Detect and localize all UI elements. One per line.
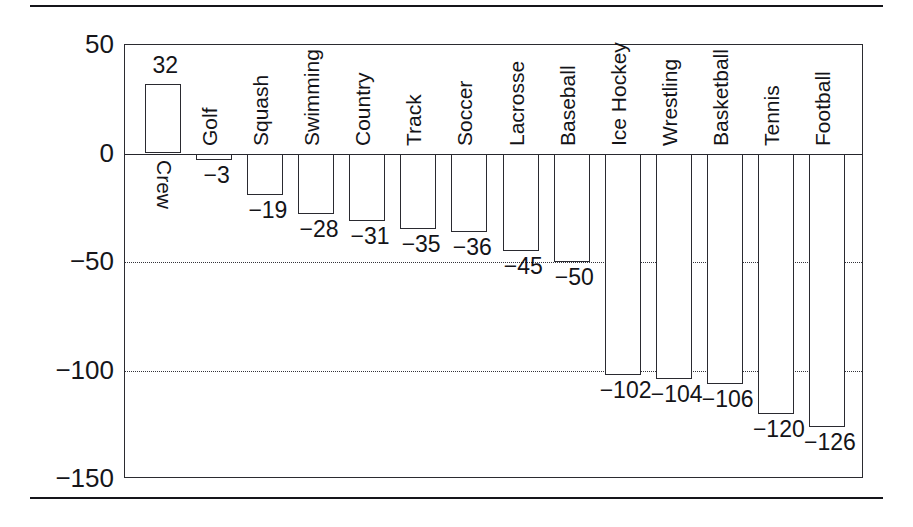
bar-value-label: −102 <box>600 379 652 402</box>
bar-value-label: −31 <box>351 225 390 248</box>
category-label: Wrestling <box>659 58 680 145</box>
category-label: Golf <box>199 107 220 146</box>
category-label: Track <box>403 94 424 146</box>
bar-value-label: −3 <box>204 164 230 187</box>
bar[interactable] <box>758 154 794 414</box>
category-label: Tennis <box>761 85 782 146</box>
bar[interactable] <box>451 154 487 232</box>
y-axis-tick-label: −150 <box>0 463 114 494</box>
bar-value-label: −106 <box>702 388 754 411</box>
y-axis-tick-label: −100 <box>0 355 114 386</box>
bar-value-label: −126 <box>804 431 856 454</box>
bar-value-label: −104 <box>651 383 703 406</box>
bar-value-label: −120 <box>753 418 805 441</box>
category-label: Football <box>812 71 833 146</box>
plot-area: CrewGolfSquashSwimmingCountryTrackSoccer… <box>124 44 863 478</box>
bar[interactable] <box>196 154 232 161</box>
y-axis-tick-label: 50 <box>0 29 114 60</box>
category-label: Crew <box>154 160 175 209</box>
category-label: Basketball <box>710 49 731 146</box>
category-label: Soccer <box>454 80 475 145</box>
bar[interactable] <box>707 154 743 384</box>
bar-value-label: −36 <box>453 236 492 259</box>
y-axis-tick-label: −50 <box>0 246 114 277</box>
bar[interactable] <box>503 154 539 252</box>
bar-value-label: −50 <box>555 266 594 289</box>
zero-baseline <box>125 154 862 155</box>
bar[interactable] <box>349 154 385 221</box>
bar-value-label: 32 <box>153 54 179 77</box>
bar-value-label: −28 <box>299 218 338 241</box>
category-label: Squash <box>250 74 271 145</box>
figure-canvas: 500−50−100−150 CrewGolfSquashSwimmingCou… <box>0 0 913 527</box>
bar-value-label: −19 <box>248 199 287 222</box>
gridline <box>125 262 862 263</box>
gridline <box>125 371 862 372</box>
bar[interactable] <box>247 154 283 195</box>
bar[interactable] <box>605 154 641 375</box>
bar[interactable] <box>298 154 334 215</box>
bar[interactable] <box>400 154 436 230</box>
category-label: Swimming <box>301 49 322 146</box>
category-label: Ice Hockey <box>608 42 629 146</box>
category-label: Country <box>352 72 373 146</box>
bar-value-label: −45 <box>504 255 543 278</box>
bar[interactable] <box>656 154 692 380</box>
bar[interactable] <box>554 154 590 263</box>
y-axis-tick-label: 0 <box>0 138 114 169</box>
bar-value-label: −35 <box>402 233 441 256</box>
category-label: Baseball <box>557 65 578 146</box>
top-horizontal-rule <box>30 5 883 7</box>
category-label: Lacrosse <box>506 60 527 145</box>
bar[interactable] <box>145 84 181 153</box>
bottom-horizontal-rule <box>30 497 883 499</box>
bar[interactable] <box>809 154 845 427</box>
